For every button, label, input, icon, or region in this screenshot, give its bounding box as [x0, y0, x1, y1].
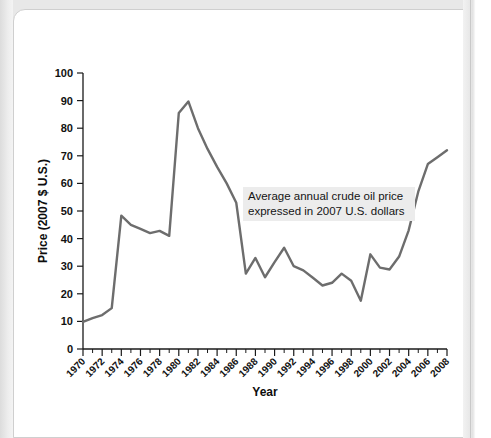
x-axis-title: Year [252, 385, 278, 399]
x-tick-label-1988: 1988 [236, 355, 260, 379]
x-tick-label-1986: 1986 [217, 355, 241, 379]
y-tick-label-20: 20 [61, 288, 73, 300]
x-tick-label-1978: 1978 [141, 355, 165, 379]
x-tick-label-1976: 1976 [121, 355, 145, 379]
x-tick-label-1996: 1996 [313, 355, 337, 379]
y-axis: 0102030405060708090100 [55, 67, 83, 355]
x-tick-label-2000: 2000 [351, 355, 375, 379]
y-tick-label-90: 90 [61, 95, 73, 107]
x-axis-tick-labels: 1970197219741976197819801982198419861988… [64, 355, 452, 379]
y-axis-title: Price (2007 $ U.S.) [36, 159, 50, 263]
x-tick-label-1990: 1990 [255, 355, 279, 379]
x-tick-label-1970: 1970 [64, 355, 88, 379]
x-tick-label-2002: 2002 [370, 355, 394, 379]
x-tick-label-1980: 1980 [160, 355, 184, 379]
crude-oil-price-chart: 0102030405060708090100 19701972197419761… [0, 0, 491, 438]
x-tick-label-2008: 2008 [428, 355, 452, 379]
x-tick-label-2006: 2006 [409, 355, 433, 379]
x-tick-label-1974: 1974 [102, 355, 126, 379]
x-tick-label-1984: 1984 [198, 355, 222, 379]
y-tick-label-80: 80 [61, 122, 73, 134]
annotation-line-2: expressed in 2007 U.S. dollars [248, 205, 405, 217]
y-tick-label-100: 100 [55, 67, 73, 79]
x-tick-label-2004: 2004 [390, 355, 414, 379]
x-tick-label-1994: 1994 [294, 355, 318, 379]
y-tick-label-50: 50 [61, 205, 73, 217]
y-tick-label-70: 70 [61, 150, 73, 162]
x-tick-label-1972: 1972 [83, 355, 107, 379]
x-tick-label-1992: 1992 [275, 355, 299, 379]
x-axis: 1970197219741976197819801982198419861988… [64, 349, 452, 379]
y-tick-label-60: 60 [61, 177, 73, 189]
x-tick-label-1998: 1998 [332, 355, 356, 379]
y-tick-label-40: 40 [61, 233, 73, 245]
y-tick-label-30: 30 [61, 260, 73, 272]
annotation-line-1: Average annual crude oil price [248, 190, 403, 202]
y-tick-label-10: 10 [61, 315, 73, 327]
chart-figure: 0102030405060708090100 19701972197419761… [0, 0, 491, 438]
y-axis-ticks [77, 73, 83, 349]
y-axis-tick-labels: 0102030405060708090100 [55, 67, 73, 355]
x-tick-label-1982: 1982 [179, 355, 203, 379]
y-tick-label-0: 0 [67, 343, 73, 355]
x-axis-ticks [83, 349, 447, 356]
annotation-callout: Average annual crude oil price expressed… [243, 187, 415, 221]
